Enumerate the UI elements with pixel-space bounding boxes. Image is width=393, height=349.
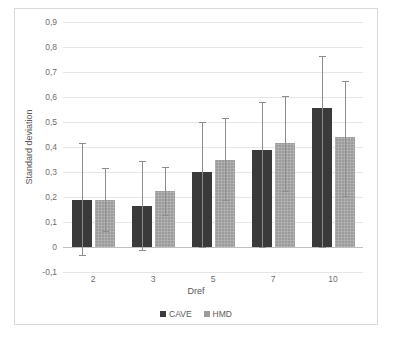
error-bar-cap (222, 200, 229, 201)
y-axis-tick-label: 0,1 (45, 217, 57, 227)
plot-area: 0,90,80,70,60,50,40,30,20,10-0,1 235710 (63, 22, 363, 272)
error-bar (82, 143, 83, 254)
error-bar-cap (199, 247, 206, 248)
error-bar-cap (79, 143, 86, 144)
error-bar-cap (319, 56, 326, 57)
error-bar-cap (162, 167, 169, 168)
y-axis-tick-label: 0,4 (45, 142, 57, 152)
y-axis-title: Standard deviation (24, 109, 34, 184)
error-bar-cap (342, 81, 349, 82)
error-bar (165, 167, 166, 215)
y-axis-tick-label: 0,5 (45, 117, 57, 127)
bar-group: 5 (183, 22, 243, 272)
error-bar-cap (259, 247, 266, 248)
gridline (63, 272, 363, 273)
error-bar-cap (139, 250, 146, 251)
legend-label: CAVE (169, 309, 192, 319)
error-bar-cap (102, 168, 109, 169)
y-axis-tick-label: 0,3 (45, 167, 57, 177)
error-bar-cap (282, 96, 289, 97)
error-bar-cap (319, 247, 326, 248)
error-bar-cap (342, 196, 349, 197)
y-axis-tick-label: 0,2 (45, 192, 57, 202)
y-axis-tick-label: -0,1 (42, 267, 57, 277)
x-axis-tick-label: 3 (123, 274, 183, 284)
error-bar-cap (79, 255, 86, 256)
error-bar-cap (259, 102, 266, 103)
x-axis-tick-label: 10 (303, 274, 363, 284)
y-axis-tick-label: 0 (52, 242, 57, 252)
error-bar-cap (282, 191, 289, 192)
error-bar (345, 81, 346, 196)
error-bar (322, 56, 323, 247)
bar-group: 10 (303, 22, 363, 272)
x-axis-tick-label: 2 (63, 274, 123, 284)
y-axis-tick-label: 0,7 (45, 67, 57, 77)
error-bar-cap (199, 122, 206, 123)
error-bar-cap (102, 231, 109, 232)
bar-group: 3 (123, 22, 183, 272)
error-bar (202, 122, 203, 247)
chart-frame: Standard deviation 0,90,80,70,60,50,40,3… (14, 8, 378, 325)
error-bar-cap (139, 161, 146, 162)
y-axis-tick-label: 0,6 (45, 92, 57, 102)
legend-swatch-icon (204, 311, 210, 317)
x-axis-title: Dref (15, 286, 377, 296)
error-bar-cap (162, 215, 169, 216)
legend-item-cave[interactable]: CAVE (160, 309, 192, 319)
y-axis-tick-label: 0,9 (45, 17, 57, 27)
x-axis-tick-label: 7 (243, 274, 303, 284)
legend-label: HMD (213, 309, 232, 319)
chart-legend: CAVEHMD (15, 309, 377, 319)
x-axis-tick-label: 5 (183, 274, 243, 284)
error-bar (225, 118, 226, 199)
error-bar (262, 102, 263, 247)
error-bar (105, 168, 106, 231)
bar-group: 7 (243, 22, 303, 272)
error-bar-cap (222, 118, 229, 119)
legend-item-hmd[interactable]: HMD (204, 309, 232, 319)
error-bar (142, 161, 143, 250)
legend-swatch-icon (160, 311, 166, 317)
y-axis-tick-label: 0,8 (45, 42, 57, 52)
bar-group: 2 (63, 22, 123, 272)
error-bar (285, 96, 286, 191)
